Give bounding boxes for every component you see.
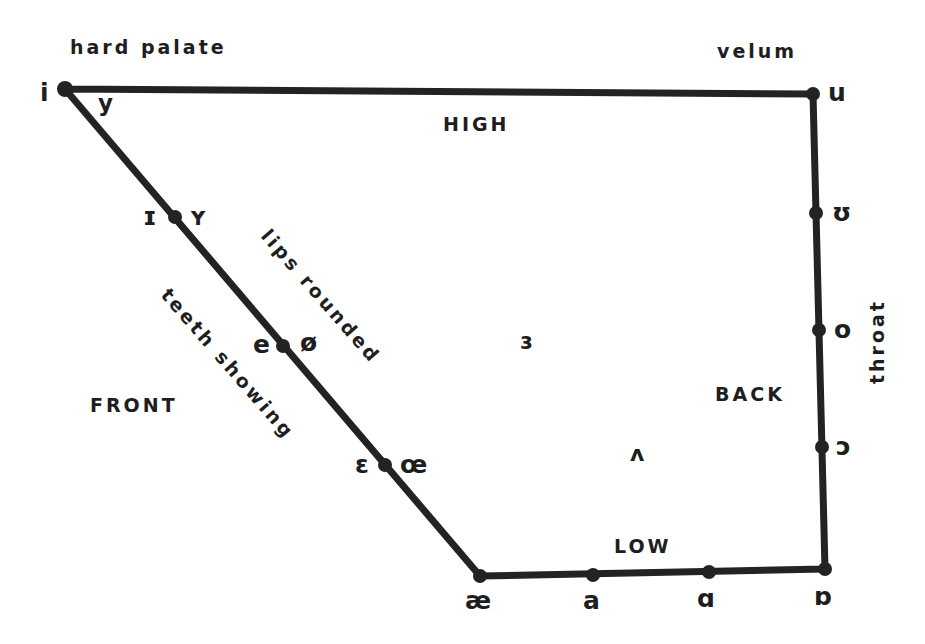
vowel-open-o: ɔ: [836, 434, 851, 459]
vowel-oe-ligature: œ: [400, 452, 427, 477]
dot-U: [809, 206, 823, 220]
dot-E: [378, 458, 392, 472]
vowel-ash: æ: [465, 588, 491, 613]
dot-o: [812, 323, 826, 337]
front-label: FRONT: [90, 396, 178, 415]
vowel-open-e: ɛ: [355, 452, 369, 477]
low-label: LOW: [614, 537, 672, 556]
vowel-quadrilateral: [0, 0, 925, 644]
dot-O: [815, 440, 829, 454]
vowel-dots: [57, 81, 832, 583]
vowel-i: i: [40, 80, 49, 105]
vowel-turned-script-a: ɒ: [814, 584, 832, 609]
vowel-u: u: [828, 80, 846, 105]
dot-ae: [473, 569, 487, 583]
vowel-a: a: [583, 588, 600, 613]
dot-I: [168, 210, 182, 224]
hard-palate-label: hard palate: [70, 38, 227, 57]
vowel-small-cap-i: ɪ: [143, 204, 157, 229]
dot-A: [702, 565, 716, 579]
throat-label: throat: [868, 299, 887, 384]
vowel-reversed-epsilon: ɜ: [520, 330, 533, 353]
high-label: HIGH: [443, 115, 509, 134]
vowel-upsilon: ʊ: [832, 200, 851, 225]
dot-O2: [818, 562, 832, 576]
back-label: BACK: [715, 385, 785, 404]
vowel-y: y: [98, 92, 113, 115]
vowel-e: e: [253, 332, 270, 357]
dot-a: [586, 568, 600, 582]
velum-label: velum: [717, 42, 797, 61]
vowel-o: o: [834, 317, 851, 342]
dot-e: [276, 339, 290, 353]
vowel-space-outline: [65, 89, 825, 576]
vowel-script-a: ɑ: [697, 586, 715, 611]
dot-i: [57, 81, 73, 97]
vowel-wedge: ʌ: [630, 443, 644, 465]
vowel-o-slash: ø: [300, 330, 317, 355]
vowel-small-cap-y: ʏ: [189, 204, 207, 229]
dot-u: [806, 87, 820, 101]
